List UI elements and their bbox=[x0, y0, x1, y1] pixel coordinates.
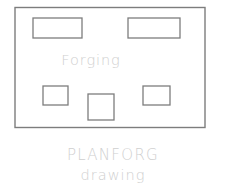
caption-title: PLANFORG bbox=[67, 146, 159, 164]
bottom-right-square bbox=[143, 86, 170, 105]
bottom-left-square bbox=[43, 86, 68, 105]
top-right-rectangle bbox=[128, 18, 180, 38]
drawing-canvas: Forging PLANFORG drawing bbox=[0, 0, 243, 189]
top-left-rectangle bbox=[33, 18, 82, 38]
forging-label: Forging bbox=[61, 52, 120, 68]
forging-plan-diagram: Forging PLANFORG drawing bbox=[0, 0, 243, 189]
caption-subtitle: drawing bbox=[81, 167, 146, 183]
bottom-center-square bbox=[88, 94, 114, 120]
